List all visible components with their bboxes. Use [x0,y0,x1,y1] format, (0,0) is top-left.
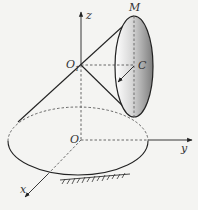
z-axis-label: z [86,10,92,21]
origin-o-label: O [70,134,79,145]
diagram-svg [0,0,198,210]
x-axis-label: x [20,184,26,195]
apex-o1-text: O [66,58,75,71]
x-axis-solid [25,174,48,197]
point-c-label: C [138,60,146,71]
apex-o1-label: O1 [66,59,80,73]
y-axis-label: y [181,143,187,154]
diagram-canvas: z M O1 C O y x [0,0,198,210]
base-ellipse-visible-arc [8,141,148,175]
apex-o1-subscript: 1 [75,65,79,73]
point-m-label: M [129,2,140,13]
